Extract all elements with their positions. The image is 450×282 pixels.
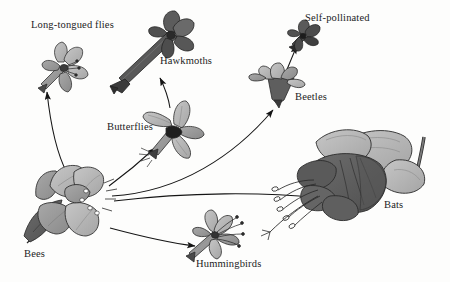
label-butterflies: Butterflies: [107, 122, 153, 133]
label-bats: Bats: [384, 200, 403, 211]
pollination-syndrome-diagram: Long-tongued flies Hawkmoths Butterflies…: [0, 0, 450, 282]
label-hawkmoths: Hawkmoths: [160, 56, 212, 67]
label-self-pollinated: Self-pollinated: [305, 13, 370, 24]
label-long-tongued-flies: Long-tongued flies: [31, 20, 114, 31]
diagram-canvas: [0, 0, 450, 282]
label-hummingbirds: Hummingbirds: [196, 259, 261, 270]
label-beetles: Beetles: [295, 92, 327, 103]
label-bees: Bees: [24, 249, 45, 260]
